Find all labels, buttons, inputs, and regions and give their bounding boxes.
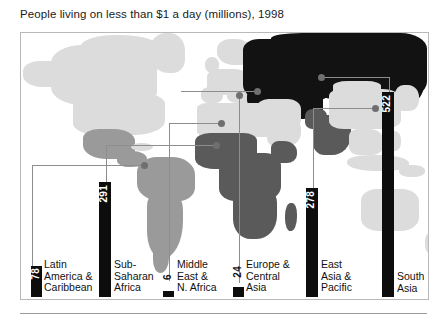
bar-latin-america-caribbean[interactable]: 78 bbox=[31, 266, 42, 297]
bar-europe-central-asia[interactable] bbox=[233, 287, 244, 297]
leader-line-middle-east-drop bbox=[169, 123, 170, 281]
footer-rule bbox=[20, 313, 427, 314]
land-canada-arctic bbox=[81, 35, 159, 59]
land-iberia bbox=[201, 87, 223, 103]
leader-line-russia bbox=[181, 91, 257, 92]
bar-east-asia-pacific[interactable]: 278 bbox=[306, 188, 318, 297]
land-korea-japan bbox=[395, 85, 419, 111]
leader-dot-russia bbox=[254, 88, 261, 95]
bar-value-europe-central-asia: 24 bbox=[233, 266, 244, 278]
leader-line-east-asia bbox=[313, 108, 375, 109]
bar-label-line: East bbox=[321, 259, 352, 271]
bar-label-east-asia-pacific: East Asia & Pacific bbox=[321, 259, 352, 294]
land-siberia-north bbox=[271, 33, 401, 55]
land-mongolia bbox=[333, 81, 381, 97]
bar-value-latin-america-caribbean: 78 bbox=[31, 268, 42, 280]
bar-label-line: Asia bbox=[397, 283, 424, 295]
bar-value-sub-saharan-africa: 291 bbox=[99, 185, 111, 203]
leader-line-latin-america-drop bbox=[32, 165, 33, 271]
bar-label-line: Middle bbox=[177, 259, 217, 271]
leader-line-south-asia bbox=[321, 77, 389, 78]
leader-dot-sub-saharan-africa bbox=[213, 142, 220, 149]
bar-label-line: Europe & bbox=[246, 259, 290, 271]
land-new-guinea bbox=[399, 165, 425, 177]
land-madagascar bbox=[285, 203, 297, 231]
leader-line-europe-central-asia bbox=[239, 95, 240, 283]
bar-label-south-asia: South Asia bbox=[397, 271, 424, 294]
leader-line-sub-saharan-africa bbox=[106, 145, 216, 146]
bar-sub-saharan-africa[interactable]: 291 bbox=[99, 182, 111, 297]
leader-dot-south-asia bbox=[318, 74, 325, 81]
leader-dot-latin-america bbox=[141, 162, 148, 169]
bar-label-europe-central-asia: Europe & Central Asia bbox=[246, 259, 290, 294]
bar-label-line: South bbox=[397, 271, 424, 283]
bar-label-line: Caribbean bbox=[44, 282, 92, 294]
leader-dot-east-asia bbox=[372, 105, 379, 112]
bar-label-sub-saharan-africa: Sub- Saharan Africa bbox=[114, 259, 154, 294]
bar-label-middle-east-north-africa: Middle East & N. Africa bbox=[177, 259, 217, 294]
land-greenland bbox=[149, 33, 185, 73]
bar-label-line: Latin bbox=[44, 259, 92, 271]
figure-root: People living on less than $1 a day (mil… bbox=[0, 0, 444, 323]
leader-line-middle-east bbox=[169, 123, 221, 124]
bar-label-line: Sub- bbox=[114, 259, 154, 271]
land-south-asia-pakistan bbox=[305, 109, 327, 129]
land-southeast-asia bbox=[349, 129, 383, 155]
bar-middle-east-north-africa[interactable] bbox=[163, 291, 174, 297]
figure-title: People living on less than $1 a day (mil… bbox=[20, 8, 284, 20]
bar-label-line: Pacific bbox=[321, 282, 352, 294]
leader-dot-middle-east bbox=[218, 120, 225, 127]
bar-label-line: Africa bbox=[114, 282, 154, 294]
bar-label-latin-america-caribbean: Latin America & Caribbean bbox=[44, 259, 92, 294]
bar-label-line: N. Africa bbox=[177, 282, 217, 294]
bar-label-line: Asia bbox=[246, 282, 290, 294]
bar-value-south-asia: 522 bbox=[382, 95, 394, 113]
leader-line-latin-america bbox=[32, 165, 144, 166]
land-new-zealand bbox=[425, 233, 429, 253]
bar-value-middle-east-north-africa: 6 bbox=[163, 274, 174, 280]
bar-value-east-asia-pacific: 278 bbox=[306, 191, 318, 209]
bar-south-asia[interactable]: 522 bbox=[382, 92, 394, 297]
land-horn-of-africa bbox=[271, 141, 297, 163]
leader-dot-europe-central-asia bbox=[236, 92, 243, 99]
